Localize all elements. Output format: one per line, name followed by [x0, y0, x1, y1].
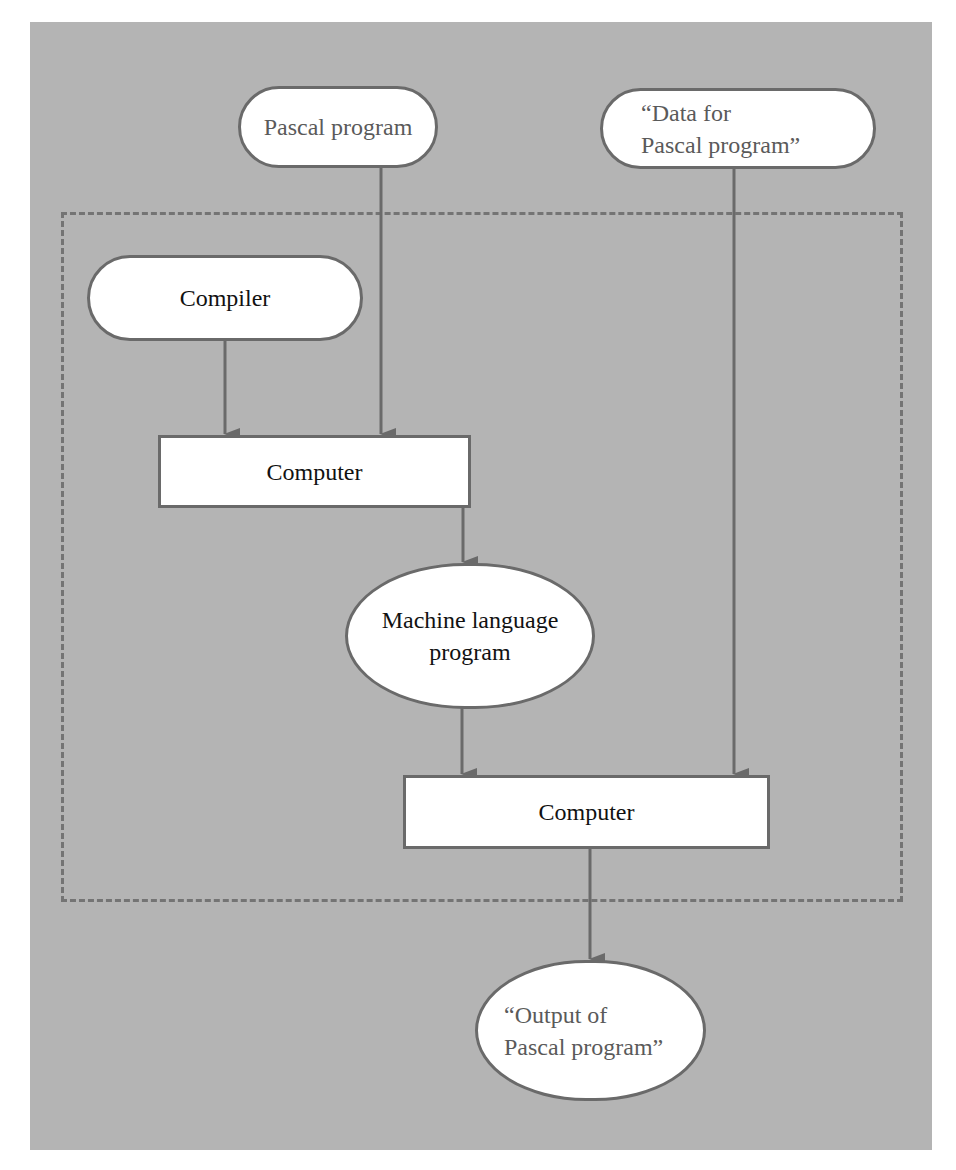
machine-language-program-label: Machine language program [382, 604, 559, 668]
output-of-program-label: “Output of Pascal program” [504, 999, 663, 1063]
pascal-program-label: Pascal program [264, 111, 413, 143]
compiler-node: Compiler [87, 255, 363, 341]
computer-1-label: Computer [267, 456, 363, 488]
pascal-program-node: Pascal program [238, 86, 438, 168]
machine-language-program-node: Machine language program [345, 563, 595, 709]
compiler-label: Compiler [180, 282, 271, 314]
computer-2-node: Computer [403, 775, 770, 849]
data-for-program-node: “Data for Pascal program” [600, 88, 876, 169]
output-of-program-node: “Output of Pascal program” [475, 960, 706, 1101]
computer-1-node: Computer [158, 435, 471, 508]
computer-2-label: Computer [539, 796, 635, 828]
data-for-program-label: “Data for Pascal program” [641, 97, 800, 161]
